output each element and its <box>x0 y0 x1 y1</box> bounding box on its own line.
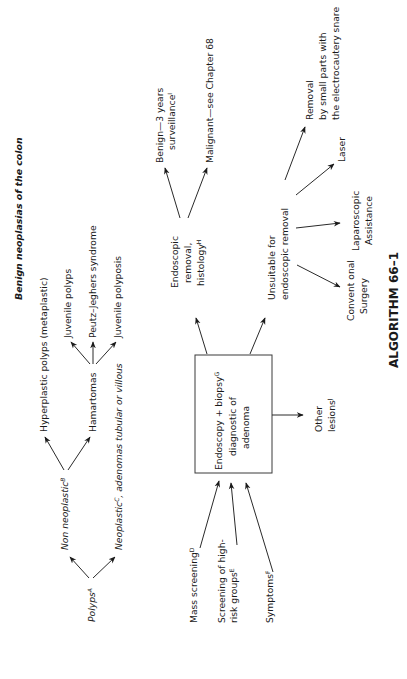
juvenile-polyps-label: Juvenile polyps <box>62 269 73 339</box>
arrow-symptoms-box <box>246 483 273 572</box>
neoplastic-label: NeoplasticC, adenomas tubular or villous <box>113 363 124 550</box>
benign-line-2: surveillanceI <box>166 93 177 150</box>
laser-label: Laser <box>336 137 347 162</box>
unsuitable-line-2: endoscopic removal <box>279 208 290 300</box>
arrow-hamart-juv <box>71 342 90 364</box>
high-risk-label-1: Screening of high- <box>216 539 227 623</box>
arrow-unsuitable-removal <box>285 127 305 180</box>
malignant-label: Malignant—see Chapter 68 <box>204 38 215 163</box>
arrow-box-unsuitable <box>250 318 265 354</box>
polyps-label: PolypsA <box>86 588 97 622</box>
endoscopy-line-3: adenoma <box>240 406 251 449</box>
arrow-polyps-non <box>70 557 89 578</box>
high-risk-label-2: risk groupsE <box>228 568 239 623</box>
symptoms-label: SymptomsF <box>264 570 275 623</box>
hamartomas-label: Hamartomas <box>87 372 98 432</box>
conventional-line-1: Convent onal <box>345 260 356 321</box>
endoscopic-line-3: histologyH <box>195 240 206 286</box>
arrow-mass-box <box>200 481 219 548</box>
other-lesions-line-2: lesionsJ <box>326 398 337 432</box>
mass-screening-label: Mass screeningD <box>188 547 199 623</box>
other-lesions-line-1: Other <box>313 406 324 432</box>
endoscopy-line-2: diagnostic of <box>227 396 238 456</box>
arrow-hamart-juvpos <box>96 342 116 364</box>
conventional-line-2: Surgery <box>358 277 369 314</box>
arrow-non-hyper <box>45 437 64 470</box>
arrow-highrisk-box <box>231 483 237 545</box>
endoscopic-line-2: removal, <box>182 243 193 283</box>
unsuitable-line-1: Unsuitable for <box>266 235 277 300</box>
hyperplastic-label: Hyperplastic polyps (metaplastic) <box>38 277 49 432</box>
arrow-box-endoscopic <box>196 318 207 354</box>
non-neoplastic-label: Non neoplasticB <box>59 478 70 550</box>
arrow-endo-benign <box>165 168 180 218</box>
arrow-unsuitable-conventional <box>297 265 340 287</box>
heading: Benign neoplasias of the colon <box>13 137 24 300</box>
endoscopic-line-1: Endoscopic <box>169 236 180 288</box>
endoscopy-line-1: Endoscopy + biopsyG <box>213 372 224 470</box>
arrow-polyps-neo <box>93 557 115 578</box>
laparoscopic-line-1: Laparoscopic <box>350 191 361 251</box>
juvenile-polyposis-label: Juvenile polyposis <box>112 256 123 339</box>
arrow-unsuitable-laser <box>296 164 334 195</box>
arrow-non-hamart <box>68 437 90 470</box>
laparoscopic-line-2: Assistance <box>363 196 374 245</box>
algorithm-title: ALGORITHM 66–1 <box>387 252 401 368</box>
removal-line-3: the electrocautery snare <box>330 7 341 120</box>
arrow-unsuitable-laparoscopic <box>296 223 340 228</box>
arrow-endo-malignant <box>188 168 207 218</box>
algorithm-diagram: ALGORITHM 66–1 Benign neoplasias of the … <box>0 0 407 679</box>
removal-line-1: Removal <box>304 80 315 120</box>
benign-line-1: Benign—3 years <box>154 88 165 163</box>
removal-line-2: by small parts with <box>317 32 328 120</box>
peutz-jeghers-label: Peutz–Jeghers syndrome <box>87 225 98 338</box>
